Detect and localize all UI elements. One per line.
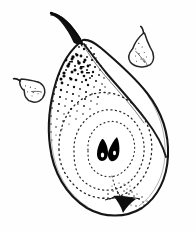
small-pear-right (127, 25, 158, 69)
small-pear-right-stem (140, 26, 145, 33)
small-pear-left-outline (15, 71, 49, 106)
pear-illustration-canvas: Pear, halved longitudinal section with t… (0, 0, 196, 231)
stem-shape (51, 13, 82, 44)
pear-illustration-svg (0, 0, 196, 231)
seed-left-highlight (101, 152, 104, 157)
small-pear-right-outline (127, 31, 157, 69)
pear-stem (51, 13, 82, 46)
seed-right-highlight (113, 151, 116, 156)
small-pear-left (12, 67, 49, 106)
